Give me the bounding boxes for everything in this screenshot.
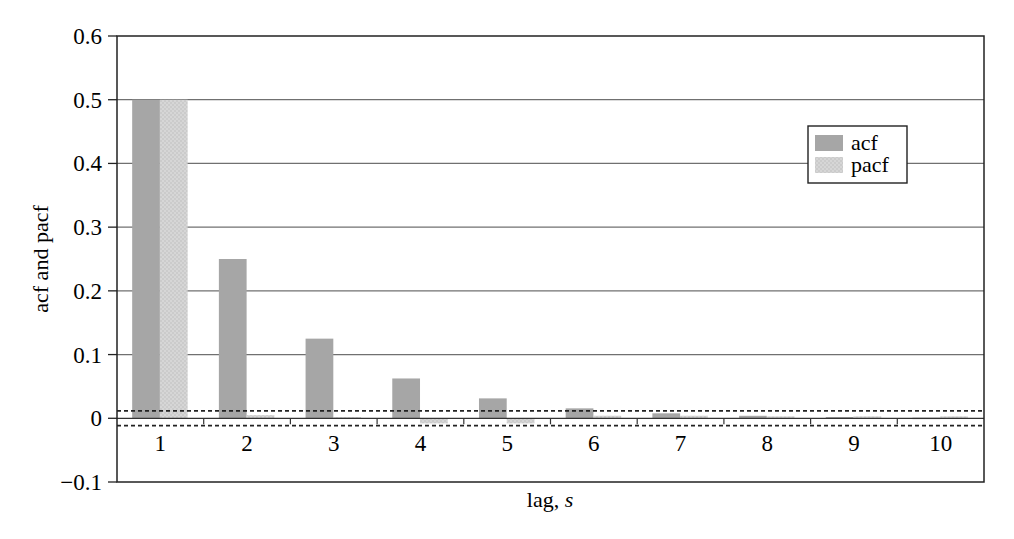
x-tick-label: 5: [501, 431, 513, 456]
legend-label-pacf: pacf: [851, 152, 890, 177]
x-tick-label: 10: [929, 431, 952, 456]
acf-bar: [652, 413, 680, 418]
legend-swatch-pacf: [815, 157, 843, 173]
x-tick-labels: 12345678910: [155, 431, 953, 456]
y-tick-label: 0.2: [73, 279, 102, 304]
x-tick-label: 4: [415, 431, 427, 456]
x-tick-label: 8: [762, 431, 774, 456]
x-tick-label: 9: [848, 431, 860, 456]
x-tick-label: 1: [155, 431, 167, 456]
y-tick-label: 0.5: [73, 88, 102, 113]
acf-pacf-chart: −0.100.10.20.30.40.50.6 12345678910 acf …: [0, 0, 1014, 539]
x-axis-title: lag, s: [527, 487, 573, 512]
x-tick-label: 7: [675, 431, 687, 456]
y-tick-labels: −0.100.10.20.30.40.50.6: [60, 24, 102, 495]
acf-bar: [132, 100, 160, 419]
acf-bar: [306, 339, 334, 419]
acf-bar: [566, 408, 594, 418]
x-tick-label: 6: [588, 431, 600, 456]
acf-bar: [479, 398, 507, 418]
legend-swatch-acf: [815, 135, 843, 151]
y-tick-label: 0.4: [73, 151, 102, 176]
pacf-bar: [507, 418, 535, 423]
pacf-bar: [420, 418, 448, 423]
legend: acfpacf: [808, 126, 907, 183]
y-tick-label: 0.6: [73, 24, 102, 49]
y-tick-label: −0.1: [60, 470, 102, 495]
y-tick-label: 0.1: [73, 343, 102, 368]
acf-bar: [219, 259, 247, 418]
y-axis-title: acf and pacf: [28, 205, 53, 313]
y-tick-label: 0.3: [73, 215, 102, 240]
acf-bar: [392, 378, 420, 418]
y-tick-label: 0: [91, 406, 103, 431]
x-tick-label: 3: [328, 431, 340, 456]
x-tick-label: 2: [241, 431, 253, 456]
pacf-bar: [160, 100, 188, 419]
